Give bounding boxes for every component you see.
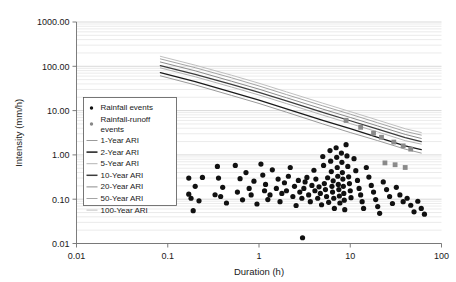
data-point <box>371 189 376 194</box>
legend-label: 2-Year ARI <box>101 148 139 157</box>
data-point <box>401 143 406 148</box>
data-point <box>260 173 265 178</box>
data-point <box>337 200 342 205</box>
legend-label: 20-Year ARI <box>101 182 144 191</box>
y-tick-label: 0.01 <box>52 239 70 249</box>
data-point <box>340 176 345 181</box>
data-point <box>390 201 395 206</box>
data-point <box>322 181 327 186</box>
data-point <box>254 201 259 206</box>
data-point <box>381 179 386 184</box>
data-point <box>334 145 339 150</box>
data-point <box>408 147 413 152</box>
x-tick-label: 1 <box>256 251 261 261</box>
data-point <box>342 198 347 203</box>
data-point <box>237 176 242 181</box>
data-point <box>251 179 256 184</box>
ari-curve <box>160 56 421 132</box>
data-point <box>332 206 337 211</box>
data-point <box>340 170 345 175</box>
data-point <box>302 179 307 184</box>
data-point <box>361 206 366 211</box>
data-point <box>196 198 201 203</box>
data-point <box>346 174 351 179</box>
data-point <box>336 182 341 187</box>
data-point <box>347 181 352 186</box>
data-point <box>288 165 293 170</box>
data-point <box>339 150 344 155</box>
data-point <box>356 186 361 191</box>
legend-label: 10-Year ARI <box>101 171 144 180</box>
data-point <box>337 193 342 198</box>
data-point <box>191 208 196 213</box>
data-point <box>369 183 374 188</box>
data-point <box>286 174 291 179</box>
data-point <box>326 200 331 205</box>
data-point <box>422 212 427 217</box>
data-point <box>419 206 424 211</box>
data-point <box>344 153 349 158</box>
data-point <box>323 187 328 192</box>
data-point <box>312 188 317 193</box>
legend-label-cont: events <box>101 125 125 134</box>
data-point <box>276 176 281 181</box>
data-point <box>193 184 198 189</box>
data-point <box>330 189 335 194</box>
data-point <box>318 191 323 196</box>
data-point <box>373 197 378 202</box>
data-point <box>267 192 272 197</box>
data-point <box>384 187 389 192</box>
data-point <box>364 165 369 170</box>
data-point <box>377 211 382 216</box>
data-point <box>290 194 295 199</box>
data-point <box>331 178 336 183</box>
data-point <box>344 118 349 123</box>
data-point <box>345 164 350 169</box>
legend-label: 100-Year ARI <box>101 206 148 215</box>
y-tick-label: 1.00 <box>52 150 70 160</box>
data-point <box>224 200 229 205</box>
data-point <box>220 185 225 190</box>
data-point <box>408 203 413 208</box>
legend-label: 5-Year ARI <box>101 159 139 168</box>
data-point <box>387 194 392 199</box>
y-tick-label: 100.00 <box>42 62 70 72</box>
data-point <box>327 148 332 153</box>
legend-dot-icon <box>90 122 93 125</box>
data-point <box>358 125 363 130</box>
data-point <box>274 186 279 191</box>
data-point <box>186 175 191 180</box>
data-point <box>218 194 223 199</box>
data-point <box>243 170 248 175</box>
data-point <box>315 196 320 201</box>
data-point <box>309 183 314 188</box>
data-point <box>342 207 347 212</box>
data-point <box>351 156 356 161</box>
ari-curve <box>160 68 421 144</box>
data-point <box>282 180 287 185</box>
data-point <box>334 155 339 160</box>
data-point <box>393 162 398 167</box>
x-axis-title: Duration (h) <box>234 266 284 277</box>
x-tick-label: 0.01 <box>68 251 86 261</box>
data-point <box>353 168 358 173</box>
ari-curve <box>160 66 421 142</box>
data-point <box>263 182 268 187</box>
legend-label: 1-Year ARI <box>101 136 139 145</box>
data-point <box>308 199 313 204</box>
data-point <box>358 192 363 197</box>
data-point <box>265 197 270 202</box>
data-point <box>405 196 410 201</box>
data-point <box>366 175 371 180</box>
data-point <box>383 160 388 165</box>
data-point <box>258 162 263 167</box>
data-point <box>375 204 380 209</box>
data-point <box>415 199 420 204</box>
data-point <box>329 184 334 189</box>
data-point <box>335 174 340 179</box>
legend-item[interactable]: 100-Year ARI <box>87 206 148 215</box>
legend-dot-icon <box>90 106 93 109</box>
data-point <box>355 178 360 183</box>
data-point <box>411 209 416 214</box>
x-tick-label: 10 <box>345 251 355 261</box>
